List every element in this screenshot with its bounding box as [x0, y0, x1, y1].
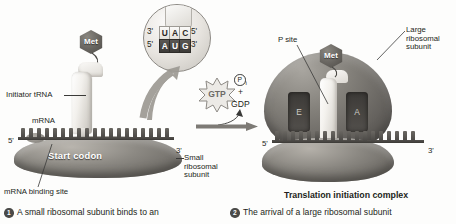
- small-ribosomal-subunit-label: Smallribosomalsubunit: [184, 154, 230, 180]
- three-prime-label-left: 3': [176, 147, 182, 156]
- large-ribosomal-subunit-label: Largeribosomalsubunit: [406, 26, 454, 52]
- mrna-binding-site-label: mRNA binding site: [4, 188, 68, 197]
- mrna-binding-site-leader: [36, 142, 60, 188]
- three-prime-label-right: 3': [428, 147, 434, 156]
- codon-3prime-right-label: 3': [191, 40, 197, 49]
- gtp-label: GTP: [203, 89, 231, 99]
- p-site-leader: [296, 44, 330, 106]
- codon-base-3: G: [179, 39, 191, 53]
- small-subunit-leader: [176, 158, 184, 159]
- pi-product-label: Pi: [234, 74, 247, 87]
- magnification-inset: 3' U A C 5' 5' A U G 3': [143, 4, 211, 72]
- caption-text-1: A small ribosomal subunit binds to an: [17, 207, 159, 217]
- anticodon-5prime-left-label: 3': [147, 27, 153, 36]
- five-prime-label-left: 5': [8, 137, 14, 146]
- codon-5prime-left-label: 5': [147, 40, 153, 49]
- gdp-label: GDP: [231, 100, 250, 109]
- initiator-trna-label: Initiator tRNA: [6, 91, 52, 100]
- met-trna-linker-right: [330, 66, 342, 78]
- anticodon-base-3: C: [179, 26, 191, 40]
- initiator-trna-left: [72, 72, 92, 134]
- caption-number-1: 1: [4, 208, 14, 218]
- anticodon-3prime-right-label: 5': [191, 27, 197, 36]
- srs-line-3: subunit: [184, 170, 209, 179]
- translation-initiation-complex-title: Translation initiation complex: [284, 190, 408, 200]
- five-prime-label-right: 5': [262, 140, 268, 149]
- mrna-strand-right: [272, 140, 424, 143]
- caption-text-2: The arrival of a large ribosomal subunit: [243, 207, 392, 217]
- magnification-arrow: [139, 66, 181, 122]
- met-amino-acid-tag-left: Met: [78, 30, 104, 54]
- lrs-line-3: subunit: [406, 42, 431, 51]
- a-site: A: [346, 92, 368, 132]
- plus-sign: +: [238, 88, 243, 97]
- pi-circle: P: [234, 74, 246, 86]
- process-arrow: [196, 122, 258, 131]
- pi-subscript: i: [246, 80, 247, 86]
- initiator-trna-leader: [64, 95, 86, 96]
- small-ribosomal-subunit-right: [262, 138, 394, 182]
- large-subunit-leader: [376, 30, 406, 62]
- mrna-strand-left: [18, 137, 174, 140]
- p-site-label: P site: [278, 36, 297, 45]
- caption-number-2: 2: [230, 208, 240, 218]
- figure-canvas: 3' U A C 5' 5' A U G 3' Met Start codon: [0, 0, 456, 224]
- mrna-label: mRNA: [32, 117, 55, 126]
